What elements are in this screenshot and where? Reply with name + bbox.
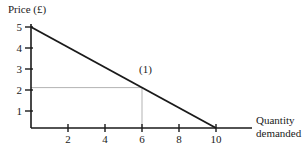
demand-curve-line xyxy=(31,27,216,128)
demand-curve-chart: Price (£) Quantity demanded 5 4 3 2 1 2 … xyxy=(0,0,308,154)
plot-area xyxy=(0,0,308,154)
